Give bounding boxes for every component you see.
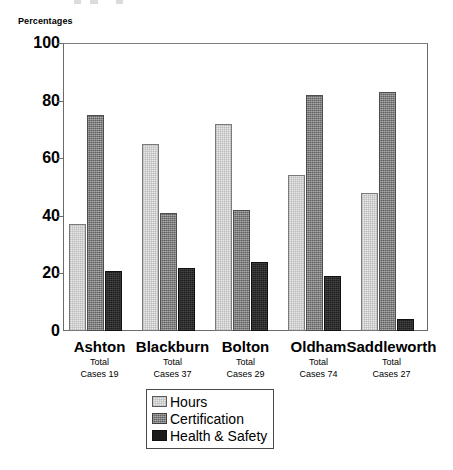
category-name: Saddleworth [343,338,440,355]
bar-bolton-certification [233,210,250,331]
bar-oldham-hours [288,175,305,331]
bars-layer [63,43,428,331]
bar-bolton-hours [215,124,232,331]
legend-swatch-hours-icon [152,396,167,407]
legend-label-certification: Certification [170,411,244,427]
bar-saddleworth-health-safety [397,319,414,331]
bar-group-saddleworth [355,43,428,331]
category-label-saddleworth: SaddleworthTotalCases 27 [343,338,440,380]
bar-blackburn-hours [142,144,159,331]
category-cases-line: Cases 27 [343,368,440,380]
bar-blackburn-health-safety [178,268,195,331]
bar-ashton-certification [87,115,104,331]
y-axis-tick-0: 0 [0,323,60,339]
legend-swatch-health-safety-icon [152,430,167,441]
legend-item-hours: Hours [152,393,267,410]
cropped-text-artifact [70,0,210,4]
bar-ashton-health-safety [105,271,122,331]
y-axis-tick-80: 80 [0,93,60,109]
bar-group-oldham [282,43,355,331]
y-axis-tick-20: 20 [0,265,60,281]
y-axis-tick-100: 100 [0,35,60,51]
bar-group-blackburn [136,43,209,331]
bar-blackburn-certification [160,213,177,331]
bar-group-bolton [209,43,282,331]
y-axis-tick-60: 60 [0,150,60,166]
y-axis-tick-40: 40 [0,208,60,224]
bar-bolton-health-safety [251,262,268,331]
bar-oldham-certification [306,95,323,331]
chart-legend: Hours Certification Health & Safety [146,389,274,449]
legend-label-health-safety: Health & Safety [170,428,267,444]
bar-chart: Percentages 100806040200 AshtonTotalCase… [0,0,453,470]
legend-label-hours: Hours [170,394,207,410]
bar-oldham-health-safety [324,276,341,331]
bar-group-ashton [63,43,136,331]
bar-saddleworth-hours [361,193,378,331]
y-axis-title: Percentages [18,16,73,26]
legend-swatch-certification-icon [152,413,167,424]
legend-item-health-safety: Health & Safety [152,427,267,444]
bar-ashton-hours [69,224,86,331]
legend-item-certification: Certification [152,410,267,427]
category-total-line: Total [343,356,440,368]
bar-saddleworth-certification [379,92,396,331]
